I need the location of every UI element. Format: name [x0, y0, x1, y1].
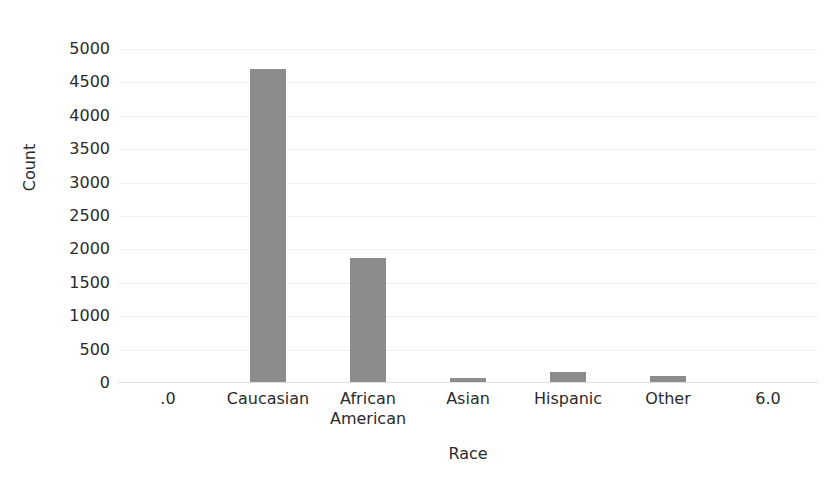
bar[interactable] — [250, 69, 286, 383]
bar-slot — [518, 49, 618, 383]
y-axis-tick-label: 2500 — [38, 208, 110, 224]
y-axis-tick-labels: 0500100015002000250030003500400045005000 — [38, 0, 110, 479]
x-axis-tick-label-line: Other — [645, 389, 690, 408]
x-axis-tick-label: .0 — [160, 389, 175, 409]
x-axis-tick-label-line: American — [330, 409, 406, 429]
bar-slot — [118, 49, 218, 383]
x-axis-tick-label: 6.0 — [755, 389, 780, 409]
bar-slot — [218, 49, 318, 383]
x-axis-tick-label-line: African — [340, 389, 396, 408]
bar-chart: Count 0500100015002000250030003500400045… — [0, 0, 836, 479]
y-axis-tick-label: 5000 — [38, 41, 110, 57]
x-axis-title: Race — [118, 444, 818, 463]
y-axis-tick-label: 0 — [38, 375, 110, 391]
plot-area — [118, 49, 818, 383]
x-axis-tick-labels: .0CaucasianAfricanAmericanAsianHispanicO… — [118, 389, 818, 449]
y-axis-title-label: Count — [20, 143, 39, 191]
y-axis-tick-label: 2000 — [38, 241, 110, 257]
bar-slot — [318, 49, 418, 383]
y-axis-tick-label: 4500 — [38, 74, 110, 90]
bar-slot — [718, 49, 818, 383]
bars-layer — [118, 49, 818, 383]
x-axis-tick-label-line: .0 — [160, 389, 175, 408]
x-axis-tick-label: AfricanAmerican — [330, 389, 406, 429]
y-axis-tick-label: 1500 — [38, 275, 110, 291]
x-axis-tick-label: Asian — [446, 389, 490, 409]
y-axis-tick-label: 1000 — [38, 308, 110, 324]
x-axis-tick-label-line: Hispanic — [534, 389, 602, 408]
x-axis-tick-label-line: Caucasian — [227, 389, 309, 408]
bar[interactable] — [350, 258, 386, 383]
x-axis-tick-label-line: 6.0 — [755, 389, 780, 408]
axis-baseline — [118, 382, 818, 383]
y-axis-tick-label: 3000 — [38, 175, 110, 191]
x-axis-tick-label: Hispanic — [534, 389, 602, 409]
x-axis-tick-label: Caucasian — [227, 389, 309, 409]
bar-slot — [418, 49, 518, 383]
x-axis-tick-label-line: Asian — [446, 389, 490, 408]
x-axis-tick-label: Other — [645, 389, 690, 409]
y-axis-tick-label: 3500 — [38, 141, 110, 157]
y-axis-tick-label: 500 — [38, 342, 110, 358]
y-axis-tick-label: 4000 — [38, 108, 110, 124]
bar-slot — [618, 49, 718, 383]
